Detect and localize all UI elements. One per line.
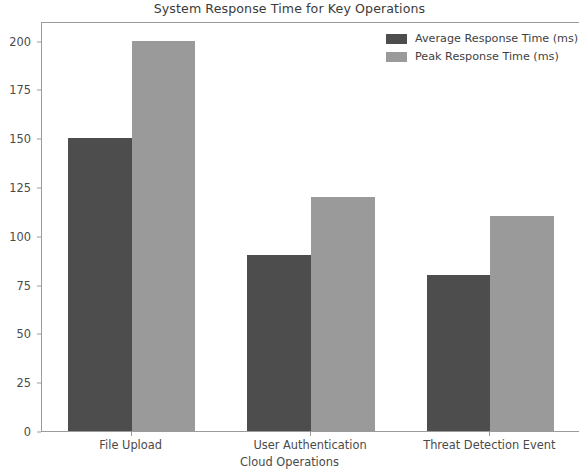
y-axis-tick-label: 25 — [17, 376, 32, 390]
x-axis-tick-label: File Upload — [99, 438, 162, 452]
bar — [490, 216, 554, 431]
y-axis-tick-label: 200 — [9, 35, 31, 49]
x-axis-tick-label: Threat Detection Event — [423, 438, 555, 452]
y-axis-tick-label: 0 — [24, 425, 31, 439]
y-axis-tick-label: 100 — [9, 230, 31, 244]
x-axis-tick-label: User Authentication — [253, 438, 366, 452]
plot-area — [41, 22, 579, 432]
x-axis-tick-mark — [131, 432, 132, 436]
x-axis-label: Cloud Operations — [0, 455, 579, 469]
legend-item: Peak Response Time (ms) — [386, 49, 578, 64]
chart-title: System Response Time for Key Operations — [0, 1, 579, 16]
legend-label: Peak Response Time (ms) — [415, 50, 559, 63]
y-axis-tick-label: 50 — [17, 327, 32, 341]
x-axis-tick-mark — [310, 432, 311, 436]
bar — [132, 41, 196, 431]
legend-swatch — [386, 34, 407, 44]
bar — [247, 255, 311, 431]
bar — [427, 275, 491, 431]
chart-figure: System Response Time for Key Operations … — [0, 0, 579, 470]
bar — [68, 138, 132, 431]
x-axis-tick-mark — [489, 432, 490, 436]
y-axis-tick-label: 125 — [9, 181, 31, 195]
chart-legend: Average Response Time (ms)Peak Response … — [386, 31, 578, 64]
y-axis-tick-label: 175 — [9, 83, 31, 97]
y-axis-tick-label: 75 — [17, 279, 32, 293]
legend-label: Average Response Time (ms) — [415, 32, 578, 45]
y-axis: 0255075100125150175200 — [0, 22, 41, 432]
bar — [311, 197, 375, 431]
legend-item: Average Response Time (ms) — [386, 31, 578, 46]
y-axis-tick-label: 150 — [9, 132, 31, 146]
bars-layer — [42, 23, 579, 431]
legend-swatch — [386, 52, 407, 62]
